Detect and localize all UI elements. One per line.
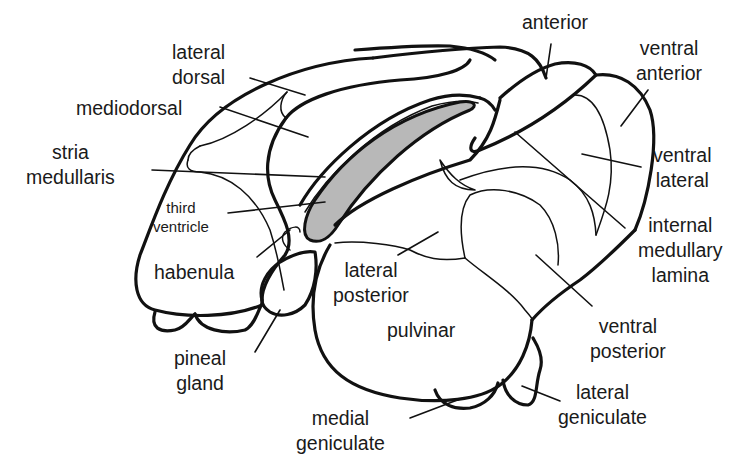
label-habenula: habenula [154,260,234,285]
label-lateral-geniculate: lateral geniculate [558,380,647,430]
label-pulvinar: pulvinar [387,318,455,343]
label-ventral-anterior: ventral anterior [636,36,702,86]
label-anterior: anterior [522,10,588,35]
lateral-geniculate-body [503,338,541,405]
label-mediodorsal: mediodorsal [76,96,182,121]
label-stria-medullaris: stria medullaris [26,140,115,190]
anterior-nucleus [471,63,654,230]
label-medial-geniculate: medial geniculate [296,406,385,456]
label-ventral-lateral: ventral lateral [653,143,712,193]
label-lateral-dorsal: lateral dorsal [172,40,225,90]
ventral-lateral-contours [440,95,611,235]
label-third-ventricle: third ventricle [153,198,209,236]
label-internal-medullary-lamina: internal medullary lamina [638,213,723,288]
label-pineal-gland: pineal gland [174,346,226,396]
label-lateral-posterior: lateral posterior [333,258,409,308]
label-ventral-posterior: ventral posterior [590,314,666,364]
